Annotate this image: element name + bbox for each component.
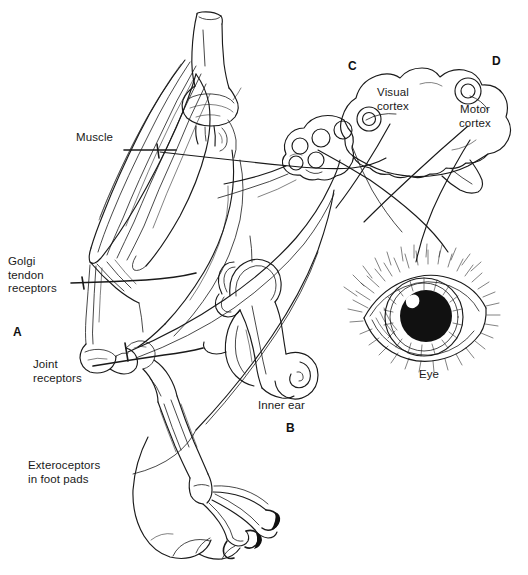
- sclera-shading: [376, 308, 397, 339]
- anatomical-line-drawing: [0, 0, 528, 575]
- label-motor-cortex: Motor cortex: [459, 103, 491, 130]
- leader-joint: [93, 343, 203, 366]
- patella: [219, 128, 227, 151]
- paw: [133, 437, 280, 559]
- hock-joint: [80, 341, 177, 402]
- brain-group: [218, 68, 511, 198]
- label-inner-ear: Inner ear: [258, 399, 305, 413]
- panel-letter-a: A: [13, 325, 22, 339]
- knee-joint-head: [182, 86, 241, 158]
- label-joint-receptors: Joint receptors: [33, 358, 82, 385]
- panel-letter-d: D: [492, 54, 501, 68]
- label-visual-cortex: Visual cortex: [377, 86, 409, 113]
- label-exteroceptors-foot-pads: Exteroceptors in foot pads: [28, 459, 100, 486]
- tibia-fibula: [158, 396, 208, 478]
- inner-ear-group: [204, 236, 319, 399]
- tendon-strands: [86, 265, 144, 344]
- eye-group: [344, 244, 500, 372]
- motor-cortex-node: [455, 78, 481, 104]
- leader-exteroceptors: [133, 430, 196, 474]
- panel-letter-b: B: [286, 421, 295, 435]
- label-golgi-tendon-receptors: Golgi tendon receptors: [8, 255, 57, 296]
- label-muscle: Muscle: [76, 131, 113, 145]
- label-eye: Eye: [419, 368, 439, 382]
- leader-golgi: [71, 273, 196, 289]
- cerebellum: [282, 116, 353, 181]
- figure-root: Muscle Golgi tendon receptors Joint rece…: [0, 0, 528, 575]
- muscle-belly: [89, 60, 210, 303]
- panel-letter-c: C: [348, 59, 357, 73]
- limb-group: [71, 12, 280, 559]
